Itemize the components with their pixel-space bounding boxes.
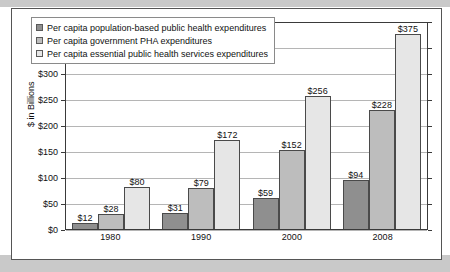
y-axis-tick-label: $0 [48, 225, 58, 235]
bar-value-label: $59 [258, 188, 273, 198]
y-axis-tick [61, 204, 65, 205]
bar-value-label: $228 [372, 100, 392, 110]
bar-2000-series1[interactable]: $59 [253, 198, 279, 229]
y-axis-tick-right [428, 74, 432, 75]
y-axis-tick [61, 74, 65, 75]
y-axis-tick-label: $150 [38, 147, 58, 157]
x-axis-labels: 1980199020002008 [65, 232, 428, 242]
bar-value-label: $172 [217, 130, 237, 140]
bar-1980-series1[interactable]: $12 [72, 223, 98, 229]
y-axis-tick-label: $50 [43, 199, 58, 209]
y-axis-tick-right [428, 204, 432, 205]
legend-label: Per capita government PHA expenditures [47, 36, 212, 46]
chart-legend: Per capita population-based public healt… [31, 17, 275, 64]
legend-item-series1[interactable]: Per capita population-based public healt… [36, 21, 268, 34]
bar-2008-series3[interactable]: $375 [395, 34, 421, 229]
bar-1980-series3[interactable]: $80 [124, 187, 150, 229]
legend-item-series3[interactable]: Per capita essential public health servi… [36, 47, 268, 60]
y-axis-tick [61, 230, 65, 231]
y-axis-tick-right [428, 178, 432, 179]
bar-1990-series3[interactable]: $172 [214, 140, 240, 229]
x-axis-label-2008: 2008 [337, 232, 428, 242]
gridline [66, 230, 427, 231]
y-axis-tick-label: $200 [38, 121, 58, 131]
bar-2008-series2[interactable]: $228 [369, 110, 395, 229]
bar-value-label: $94 [348, 170, 363, 180]
y-axis-tick [61, 178, 65, 179]
y-axis-tick-label: $300 [38, 69, 58, 79]
bar-value-label: $375 [398, 24, 418, 34]
x-axis-label-1980: 1980 [65, 232, 156, 242]
bar-1990-series1[interactable]: $31 [162, 213, 188, 229]
chart-page: $ in Billions $0$50$100$150$200$250$300$… [0, 0, 450, 272]
y-axis-tick-right [428, 100, 432, 101]
bar-value-label: $152 [282, 140, 302, 150]
x-axis-label-2000: 2000 [247, 232, 338, 242]
y-axis-tick [61, 152, 65, 153]
y-axis-tick-right [428, 22, 432, 23]
y-axis-tick-label: $100 [38, 173, 58, 183]
y-axis-tick [61, 126, 65, 127]
bar-2000-series2[interactable]: $152 [279, 150, 305, 229]
y-axis-title: $ in Billions [26, 81, 36, 127]
legend-item-series2[interactable]: Per capita government PHA expenditures [36, 34, 268, 47]
bar-group-2008: $94$228$375 [337, 22, 427, 229]
bar-value-label: $12 [78, 213, 93, 223]
y-axis-tick-right [428, 152, 432, 153]
legend-swatch-icon [36, 24, 43, 31]
y-axis-tick [61, 100, 65, 101]
bar-2008-series1[interactable]: $94 [343, 180, 369, 229]
bar-value-label: $256 [308, 86, 328, 96]
legend-swatch-icon [36, 37, 43, 44]
y-axis-tick-right [428, 126, 432, 127]
y-axis-tick-right [428, 48, 432, 49]
bar-1990-series2[interactable]: $79 [188, 188, 214, 229]
legend-label: Per capita essential public health servi… [47, 49, 268, 59]
x-axis-label-1990: 1990 [156, 232, 247, 242]
bar-1980-series2[interactable]: $28 [98, 214, 124, 229]
legend-swatch-icon [36, 50, 43, 57]
y-axis-tick-label: $250 [38, 95, 58, 105]
bar-2000-series3[interactable]: $256 [305, 96, 331, 229]
bar-value-label: $80 [130, 177, 145, 187]
bar-value-label: $79 [194, 178, 209, 188]
bar-value-label: $28 [104, 204, 119, 214]
y-axis-tick-right [428, 230, 432, 231]
figure-frame: $ in Billions $0$50$100$150$200$250$300$… [11, 8, 442, 260]
legend-label: Per capita population-based public healt… [47, 23, 266, 33]
bar-value-label: $31 [168, 203, 183, 213]
